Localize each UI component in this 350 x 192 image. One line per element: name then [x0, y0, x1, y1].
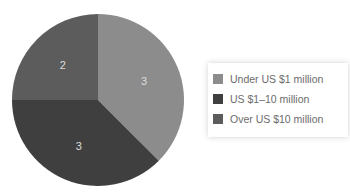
pie-slice: [12, 14, 98, 100]
slice-value-label: 2: [60, 59, 66, 71]
legend: Under US $1 million US $1–10 million Ove…: [208, 63, 348, 137]
slice-value-label: 3: [141, 75, 147, 87]
legend-label: Under US $1 million: [230, 73, 323, 85]
legend-label: US $1–10 million: [230, 93, 309, 105]
legend-swatch: [213, 94, 223, 104]
pie-chart: 332: [0, 0, 200, 192]
legend-item-over-10m: Over US $10 million: [213, 112, 323, 126]
slice-value-label: 3: [76, 140, 82, 152]
legend-item-under-1m: Under US $1 million: [213, 72, 323, 86]
legend-swatch: [213, 74, 223, 84]
legend-item-1-10m: US $1–10 million: [213, 92, 309, 106]
legend-label: Over US $10 million: [230, 113, 323, 125]
legend-swatch: [213, 114, 223, 124]
